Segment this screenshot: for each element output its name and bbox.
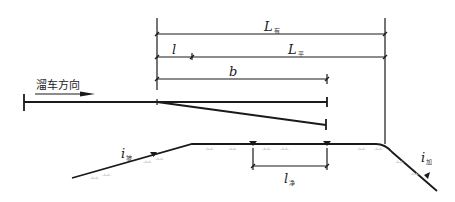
label-i-add: i加 bbox=[421, 150, 432, 166]
dimension-L-effective: L有 bbox=[155, 19, 387, 36]
svg-text:䒑: 䒑 bbox=[143, 158, 152, 168]
svg-text:䒑: 䒑 bbox=[357, 145, 366, 155]
label-i-slope: i坡 bbox=[121, 146, 132, 162]
svg-text:䒑: 䒑 bbox=[262, 145, 271, 155]
label-l: l bbox=[172, 42, 176, 57]
svg-text:䒑: 䒑 bbox=[155, 155, 164, 165]
rolling-direction: 溜车方向 bbox=[35, 78, 95, 97]
svg-text:䒑: 䒑 bbox=[205, 145, 214, 155]
svg-text:䒑: 䒑 bbox=[102, 171, 111, 181]
svg-text:䒑: 䒑 bbox=[395, 158, 404, 168]
svg-text:䒑: 䒑 bbox=[410, 170, 419, 180]
direction-label: 溜车方向 bbox=[36, 78, 80, 92]
grade-marker-icon bbox=[424, 172, 430, 179]
hump-profile-diagram: L有 l L平 b 溜车方向 bbox=[0, 0, 455, 202]
track-layout bbox=[24, 94, 327, 130]
arrow-head-icon bbox=[80, 92, 95, 97]
svg-text:䒑: 䒑 bbox=[90, 174, 99, 184]
dimension-l-and-L-flat: l L平 bbox=[155, 42, 387, 60]
svg-text:䒑: 䒑 bbox=[374, 145, 383, 155]
dimension-b: b bbox=[155, 64, 329, 81]
label-l-net: l净 bbox=[284, 171, 295, 187]
diverging-track bbox=[157, 102, 326, 125]
label-L-effective: L有 bbox=[263, 19, 280, 35]
label-L-flat: L平 bbox=[287, 42, 304, 58]
label-b: b bbox=[229, 64, 237, 79]
svg-text:䒑: 䒑 bbox=[280, 145, 289, 155]
svg-text:䒑: 䒑 bbox=[228, 145, 237, 155]
